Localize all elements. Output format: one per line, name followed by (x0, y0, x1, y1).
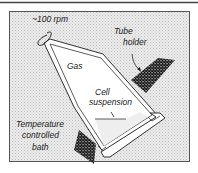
bath-label-1: Temperature (16, 119, 64, 129)
tube-holder-label-2: holder (123, 37, 148, 47)
tube-holder-label-1: Tube (114, 26, 133, 36)
gas-label: Gas (67, 61, 83, 71)
bath-label-2: controlled (22, 130, 59, 140)
bath-label-3: bath (32, 142, 49, 152)
speed-label: ~100 rpm (32, 14, 68, 24)
cell-suspension-label-2: suspension (89, 97, 132, 107)
diagram: ~100 rpm Tube holder Gas Cell suspension… (0, 0, 198, 173)
cell-suspension-label-1: Cell (95, 87, 111, 97)
